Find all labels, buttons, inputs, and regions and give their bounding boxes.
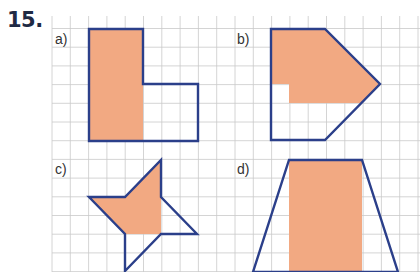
label-c: c) xyxy=(55,161,67,177)
label-b: b) xyxy=(237,31,249,47)
label-d: d) xyxy=(237,161,249,177)
label-a: a) xyxy=(55,31,67,47)
figure-d: d) xyxy=(237,160,398,272)
grid-sheet: a) b) c) d) xyxy=(0,0,420,272)
shaded-area-a xyxy=(89,29,143,141)
shaded-area-d xyxy=(289,160,362,272)
